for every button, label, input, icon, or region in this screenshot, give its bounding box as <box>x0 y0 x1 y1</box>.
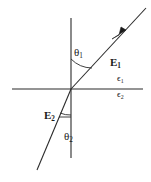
label-theta1-subscript: 1 <box>79 52 83 60</box>
label-theta2: θ2 <box>64 131 73 144</box>
label-theta2-subscript: 2 <box>69 136 73 144</box>
label-e1-subscript: 1 <box>117 62 121 70</box>
label-e2-subscript: 2 <box>51 115 55 123</box>
label-e2: E2 <box>44 110 55 123</box>
label-epsilon1: ϵ1 <box>117 74 124 85</box>
label-theta1: θ1 <box>74 47 83 60</box>
diagram-canvas <box>0 0 151 182</box>
label-e1: E1 <box>110 57 121 70</box>
angle-arc-theta2 <box>60 113 71 115</box>
label-epsilon2: ϵ2 <box>117 90 124 101</box>
label-epsilon1-subscript: 1 <box>121 78 124 84</box>
refraction-diagram: θ1 θ2 E1 E2 ϵ1 ϵ2 <box>0 0 151 182</box>
label-epsilon2-subscript: 2 <box>121 94 124 100</box>
angle-arc-theta1 <box>71 59 92 68</box>
